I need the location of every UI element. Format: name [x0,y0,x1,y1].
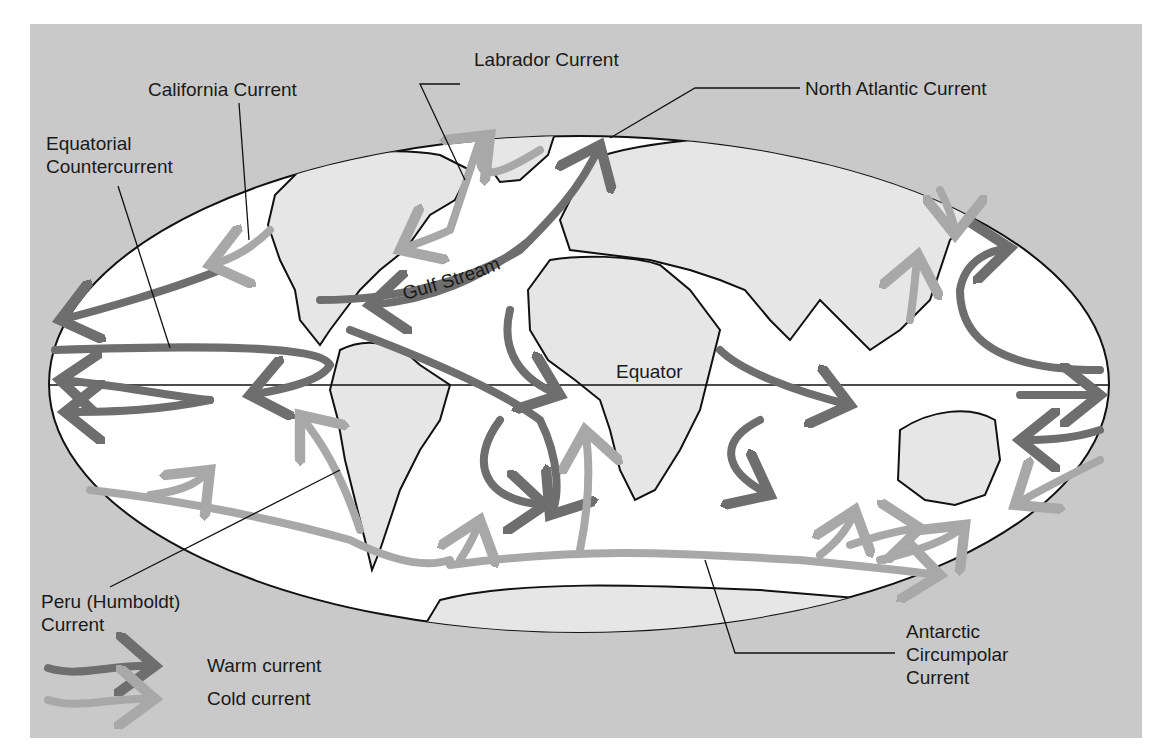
label-line: Peru (Humboldt) [41,590,180,613]
label-line: Antarctic [906,620,1008,643]
legend-warm-current-label: Warm current [207,655,321,677]
label-antarctic-circumpolar-current: Antarctic Circumpolar Current [906,620,1008,689]
label-line: Countercurrent [46,155,173,178]
label-california-current: California Current [148,78,297,101]
label-line: Current [41,613,180,636]
label-labrador-current: Labrador Current [474,48,619,71]
cold-current-arrow-icon [48,699,155,704]
legend-cold-current-label: Cold current [207,688,311,710]
warm-current-arrow-icon [48,666,155,672]
label-line: Current [906,666,1008,689]
label-equatorial-countercurrent: Equatorial Countercurrent [46,132,173,178]
label-north-atlantic-current: North Atlantic Current [805,77,987,100]
legend-arrows [48,666,155,704]
australia [898,411,1000,505]
label-peru-humboldt-current: Peru (Humboldt) Current [41,590,180,636]
label-equator: Equator [616,360,683,383]
label-line: Circumpolar [906,643,1008,666]
label-line: Equatorial [46,132,173,155]
